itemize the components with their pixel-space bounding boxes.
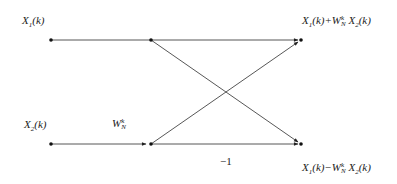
edge-mid1-out2	[151, 40, 298, 142]
node-out1	[299, 38, 303, 42]
input-x2-arg: (k)	[34, 118, 46, 130]
out-sum-arg-b: (k)	[359, 14, 371, 26]
twiddle-scripts: kN	[121, 118, 126, 131]
node-in2	[49, 142, 53, 146]
edge-mid2-out1	[151, 42, 298, 144]
input-x1-arg: (k)	[32, 14, 44, 26]
node-mid1	[149, 38, 153, 42]
out-sum-a: X	[302, 14, 309, 26]
input-x2-base: X	[24, 118, 31, 130]
output-label-sum: X1(k)+WkN X2(k)	[302, 15, 371, 29]
twiddle-label: WkN	[112, 118, 126, 131]
node-out2	[299, 142, 303, 146]
negation-label: −1	[220, 156, 232, 167]
out-sum-arg-a: (k)+W	[312, 14, 341, 26]
out-diff-a: X	[302, 161, 309, 173]
out-diff-arg-b: (k)	[359, 161, 371, 173]
out-diff-sub-w: N	[341, 168, 346, 174]
out-sum-w-scripts: kN	[341, 15, 346, 28]
node-mid2	[149, 142, 153, 146]
out-sum-sub-w: N	[341, 21, 346, 27]
input-label-x1: X1(k)	[22, 15, 44, 29]
out-diff-arg-a: (k)−W	[312, 161, 341, 173]
out-diff-w-scripts: kN	[341, 162, 346, 175]
output-label-diff: X1(k)−WkN X2(k)	[302, 162, 371, 176]
node-in1	[49, 38, 53, 42]
input-x1-base: X	[22, 14, 29, 26]
twiddle-sub: N	[121, 124, 126, 130]
input-label-x2: X2(k)	[24, 119, 46, 133]
twiddle-base: W	[112, 117, 121, 129]
